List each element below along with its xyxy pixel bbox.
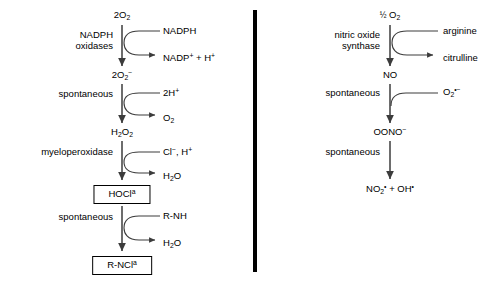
- substrate-2h: 2H+: [163, 88, 179, 99]
- species-2o2: 2O2: [114, 10, 131, 21]
- product-h2o-1: H2O: [163, 171, 181, 182]
- enzyme-nadph-oxidases: NADPHoxidases: [76, 30, 114, 52]
- enzyme-spontaneous-1-line-1: spontaneous: [59, 89, 113, 100]
- reaction-arrow-dismutation: [122, 84, 160, 123]
- substrate-nadph: NADPH: [163, 26, 196, 37]
- enzyme-spontaneous-2-line-1: spontaneous: [59, 212, 113, 223]
- product-citrulline: citrulline: [443, 53, 478, 64]
- reaction-arrow-myeloperoxidase: [122, 141, 160, 180]
- species-no2-oh: NO2• + OH•: [366, 184, 414, 195]
- species-oono: OONO−: [373, 127, 406, 138]
- enzyme-nadph-oxidases-line-2: oxidases: [76, 41, 114, 52]
- curved-cofactor-arrow: [124, 152, 160, 173]
- product-o2: O2: [163, 113, 174, 124]
- enzyme-spontaneous-1: spontaneous: [59, 89, 113, 100]
- species-half-o2: ½ O2: [380, 10, 401, 21]
- curved-cofactor-arrow: [392, 31, 438, 55]
- species-h2o2: H2O2: [111, 127, 133, 138]
- substrate-arginine: arginine: [443, 26, 477, 37]
- substrate-rnh: R-NH: [163, 211, 187, 222]
- curved-cofactor-arrow: [124, 93, 160, 115]
- reaction-arrow-chloramine: [122, 206, 160, 251]
- pathway-diagram: 2O22O2−H2O2HOClaR-NClaNADPH2H+Cl−, H+R-N…: [0, 0, 500, 281]
- enzyme-spontaneous-3: spontaneous: [326, 88, 380, 99]
- product-h2o-2: H2O: [163, 238, 181, 249]
- substrate-o2-rad: O2•−: [443, 87, 461, 98]
- enzyme-myeloperoxidase: myeloperoxidase: [41, 147, 113, 158]
- species-no: NO: [383, 70, 397, 81]
- panel-divider: [253, 10, 257, 272]
- enzyme-myeloperoxidase-line-1: myeloperoxidase: [41, 147, 113, 158]
- substrate-cl-h: Cl−, H+: [163, 147, 192, 158]
- curved-cofactor-arrow: [391, 93, 438, 106]
- species-2o2-rad: 2O2−: [112, 70, 133, 81]
- enzyme-spontaneous-4: spontaneous: [326, 147, 380, 158]
- species-rncl: R-NCla: [92, 256, 152, 275]
- reaction-arrow-nadph-oxidase: [122, 25, 160, 66]
- enzyme-nitric-oxide-synthase-line-2: synthase: [335, 41, 380, 52]
- species-hocl: HOCla: [93, 185, 150, 204]
- curved-cofactor-arrow: [124, 216, 160, 240]
- enzyme-spontaneous-3-line-1: spontaneous: [326, 88, 380, 99]
- reaction-arrow-nos: [390, 25, 438, 66]
- curved-cofactor-arrow: [124, 31, 160, 55]
- enzyme-nitric-oxide-synthase: nitric oxidesynthase: [335, 30, 380, 52]
- reaction-arrow-peroxynitrite: [390, 84, 438, 123]
- product-nadp-h: NADP+ + H+: [163, 53, 215, 64]
- enzyme-spontaneous-4-line-1: spontaneous: [326, 147, 380, 158]
- enzyme-spontaneous-2: spontaneous: [59, 212, 113, 223]
